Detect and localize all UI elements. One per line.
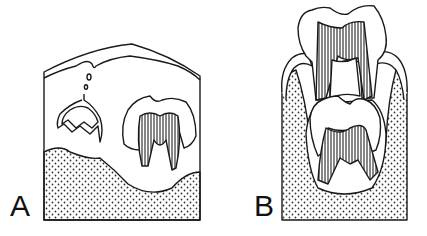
dental-lamina-dot <box>84 85 87 89</box>
dental-lamina-dot <box>87 74 91 80</box>
dental-development-figure: A B <box>0 0 427 236</box>
panel-b <box>282 6 407 220</box>
panel-label-a: A <box>10 191 30 221</box>
panel-a <box>44 44 200 220</box>
panel-label-b: B <box>254 191 274 221</box>
figure-drawing <box>0 0 427 236</box>
